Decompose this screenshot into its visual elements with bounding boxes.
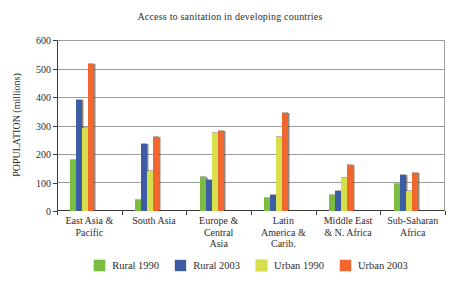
- legend-swatch-rural-1990: [94, 260, 105, 271]
- category-label-east-asia-pacific: East Asia & Pacific: [57, 215, 122, 238]
- category-label-south-asia: South Asia: [122, 215, 187, 227]
- legend-swatch-rural-2003: [175, 260, 186, 271]
- category-label-europe-central-asia: Europe & Central Asia: [186, 215, 251, 250]
- bar-urban-2003-east-asia-pacific: [88, 64, 94, 211]
- legend-item-urban-2003: Urban 2003: [340, 260, 408, 271]
- legend-label-urban-1990: Urban 1990: [274, 260, 324, 271]
- y-tick-label-100: 100: [21, 177, 51, 188]
- y-tick-label-400: 400: [21, 92, 51, 103]
- category-labels: East Asia & PacificSouth AsiaEurope & Ce…: [57, 215, 445, 250]
- category-group-europe-central-asia: [179, 40, 244, 211]
- legend-label-rural-2003: Rural 2003: [193, 260, 240, 271]
- legend-item-urban-1990: Urban 1990: [256, 260, 324, 271]
- category-group-east-asia-pacific: [50, 40, 115, 211]
- chart-figure: Access to sanitation in developing count…: [0, 0, 460, 294]
- category-group-south-asia: [115, 40, 180, 211]
- category-group-latin-america-carib: [244, 40, 309, 211]
- bar-urban-2003-middle-east-n-africa: [347, 165, 353, 211]
- y-tick-mark-200: [53, 154, 57, 155]
- legend-swatch-urban-2003: [340, 260, 351, 271]
- bar-urban-2003-europe-central-asia: [218, 131, 224, 211]
- legend-item-rural-1990: Rural 1990: [94, 260, 159, 271]
- category-label-latin-america-carib: Latin America & Carib.: [251, 215, 316, 250]
- bar-urban-2003-sub-saharan-africa: [412, 173, 418, 211]
- legend-swatch-urban-1990: [256, 260, 267, 271]
- legend-label-urban-2003: Urban 2003: [358, 260, 408, 271]
- y-tick-mark-100: [53, 183, 57, 184]
- legend: Rural 1990Rural 2003Urban 1990Urban 2003: [0, 260, 460, 271]
- y-tick-mark-600: [53, 40, 57, 41]
- y-tick-label-500: 500: [21, 63, 51, 74]
- bar-groups: [57, 40, 445, 211]
- y-axis-title: POPULATION (millions): [11, 73, 22, 177]
- y-tick-mark-500: [53, 69, 57, 70]
- legend-item-rural-2003: Rural 2003: [175, 260, 240, 271]
- y-tick-label-300: 300: [21, 120, 51, 131]
- y-tick-mark-300: [53, 126, 57, 127]
- bar-urban-2003-latin-america-carib: [282, 113, 288, 211]
- y-tick-label-0: 0: [21, 206, 51, 217]
- y-tick-mark-400: [53, 97, 57, 98]
- y-tick-label-600: 600: [21, 35, 51, 46]
- category-label-middle-east-n-africa: Middle East & N. Africa: [316, 215, 381, 238]
- bar-urban-2003-south-asia: [153, 137, 159, 211]
- category-group-middle-east-n-africa: [309, 40, 374, 211]
- x-tick-mark-6: [445, 211, 446, 215]
- category-group-sub-saharan-africa: [373, 40, 438, 211]
- legend-label-rural-1990: Rural 1990: [112, 260, 159, 271]
- category-label-sub-saharan-africa: Sub-Saharan Africa: [380, 215, 445, 238]
- chart-title: Access to sanitation in developing count…: [0, 11, 460, 22]
- y-tick-label-200: 200: [21, 149, 51, 160]
